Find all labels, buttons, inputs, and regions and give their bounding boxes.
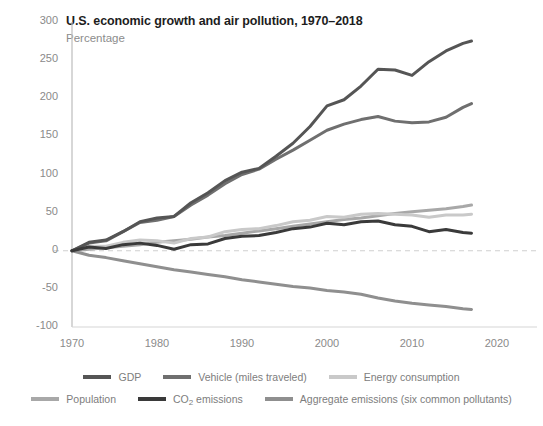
y-tick-label: 200 [14,90,58,102]
legend-item-label: CO2 emissions [173,393,243,405]
legend-item[interactable]: Vehicle (miles traveled) [163,371,307,383]
legend-swatch-icon [31,397,59,401]
legend-item-label: Vehicle (miles traveled) [198,371,307,383]
legend-item-label: GDP [118,371,141,383]
legend-item[interactable]: CO2 emissions [138,393,243,405]
chart-legend: GDPVehicle (miles traveled)Energy consum… [0,366,543,410]
y-tick-label: 50 [14,205,58,217]
x-tick-label: 2000 [297,337,357,349]
y-tick-label: 250 [14,52,58,64]
legend-item-label: Aggregate emissions (six common pollutan… [300,393,512,405]
legend-item[interactable]: Population [31,393,116,405]
legend-item[interactable]: GDP [83,371,141,383]
series-line-aggregate-emissions-six-common-pollutants [72,251,472,310]
x-tick-label: 1990 [212,337,272,349]
legend-swatch-icon [329,375,357,379]
y-tick-label: 100 [14,167,58,179]
legend-swatch-icon [138,397,166,401]
y-tick-label: 150 [14,128,58,140]
x-tick-label: 2010 [382,337,442,349]
legend-item[interactable]: Aggregate emissions (six common pollutan… [265,393,512,405]
legend-item[interactable]: Energy consumption [329,371,460,383]
x-tick-label: 1980 [127,337,187,349]
legend-swatch-icon [265,397,293,401]
legend-swatch-icon [83,375,111,379]
legend-item-label: Population [66,393,116,405]
x-tick-label: 1970 [42,337,102,349]
y-tick-label: 300 [14,14,58,26]
x-tick-label: 2020 [467,337,527,349]
legend-item-label: Energy consumption [364,371,460,383]
legend-row-secondary: PopulationCO2 emissionsAggregate emissio… [0,388,543,410]
y-tick-label: -50 [14,281,58,293]
series-line-gdp [72,41,472,251]
plot-area [0,0,543,426]
y-tick-label: 0 [14,243,58,255]
y-tick-label: -100 [14,319,58,331]
legend-row-primary: GDPVehicle (miles traveled)Energy consum… [0,366,543,388]
chart-container: U.S. economic growth and air pollution, … [0,0,543,426]
legend-swatch-icon [163,375,191,379]
